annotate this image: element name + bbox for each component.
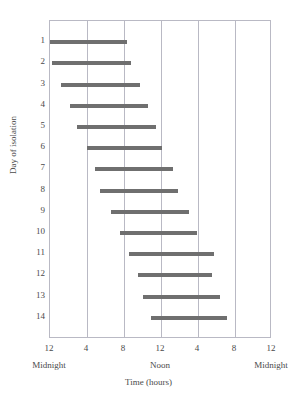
y-tick-label-3: 3 (5, 79, 45, 88)
y-tick-label-9: 9 (5, 206, 45, 215)
x-tick-label-1: 4 (71, 343, 101, 353)
y-tick-label-12: 12 (5, 269, 45, 278)
bar-day-5 (77, 125, 157, 129)
x-tick-label-3: 12 (145, 343, 175, 353)
y-tick-label-13: 13 (5, 291, 45, 300)
bar-day-14 (151, 316, 227, 320)
x-tick-label-5: 8 (219, 343, 249, 353)
gridline-vertical (124, 21, 125, 337)
bar-day-4 (70, 104, 148, 108)
bar-day-7 (95, 167, 173, 171)
bar-day-11 (129, 252, 214, 256)
bar-day-9 (111, 210, 189, 214)
y-tick-label-4: 4 (5, 100, 45, 109)
bar-day-10 (120, 231, 197, 235)
sleep-isolation-chart: Day of isolation Time (hours) 1234567891… (0, 0, 297, 394)
bar-day-3 (61, 83, 140, 87)
bar-day-12 (138, 273, 212, 277)
y-tick-label-11: 11 (5, 248, 45, 257)
bar-day-2 (52, 61, 132, 65)
plot-area (49, 20, 271, 338)
bar-day-8 (100, 189, 178, 193)
gridline-vertical (161, 21, 162, 337)
y-tick-label-1: 1 (5, 36, 45, 45)
y-tick-label-14: 14 (5, 312, 45, 321)
x-axis-title: Time (hours) (0, 377, 297, 387)
y-tick-label-10: 10 (5, 227, 45, 236)
x-tick-label-4: 4 (182, 343, 212, 353)
gridline-vertical (235, 21, 236, 337)
y-tick-label-8: 8 (5, 185, 45, 194)
x-period-label-2: Midnight (231, 360, 297, 370)
y-tick-label-5: 5 (5, 121, 45, 130)
x-period-label-1: Noon (120, 360, 200, 370)
gridline-vertical (198, 21, 199, 337)
bar-day-13 (143, 295, 220, 299)
x-tick-label-0: 12 (34, 343, 64, 353)
bar-day-1 (50, 40, 127, 44)
bar-day-6 (87, 146, 162, 150)
x-tick-label-2: 8 (108, 343, 138, 353)
x-tick-label-6: 12 (256, 343, 286, 353)
y-tick-label-6: 6 (5, 142, 45, 151)
x-period-label-0: Midnight (9, 360, 89, 370)
y-tick-label-2: 2 (5, 57, 45, 66)
gridline-vertical (87, 21, 88, 337)
y-tick-label-7: 7 (5, 163, 45, 172)
